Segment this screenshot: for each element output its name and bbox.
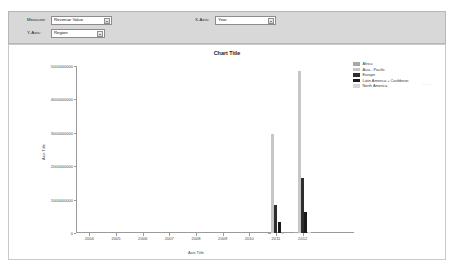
series-value: Region xyxy=(52,31,68,35)
xaxis-label: X-Axis: xyxy=(195,18,211,22)
legend-item[interactable]: North America xyxy=(353,84,408,88)
x-axis-tick-label: 2007 xyxy=(165,236,174,241)
chevron-down-icon[interactable] xyxy=(268,18,274,24)
legend-label: Latin America + Caribbean xyxy=(363,79,409,83)
bar xyxy=(308,232,311,233)
x-axis-line xyxy=(76,232,354,233)
legend-item[interactable]: Africa xyxy=(353,62,408,66)
y-axis-tick-label: 4000000000 xyxy=(51,97,76,102)
legend-swatch xyxy=(353,62,360,65)
series-label: Y-Axis: xyxy=(27,31,47,35)
chevron-down-icon[interactable] xyxy=(97,31,103,37)
y-axis-tick-label: 1000000000 xyxy=(51,197,76,202)
x-axis-tick-label: 2005 xyxy=(111,236,120,241)
y-axis-tick-label: 3000000000 xyxy=(51,130,76,135)
x-axis-tick-label: 2011 xyxy=(272,236,281,241)
panel-note: ......... xyxy=(422,82,433,86)
y-axis-tick-mark xyxy=(74,200,77,201)
x-axis-tick-label: 2004 xyxy=(85,236,94,241)
plot-area: 0100000000020000000003000000000400000000… xyxy=(76,66,316,233)
x-axis-tick-label: 2009 xyxy=(218,236,227,241)
chevron-down-icon[interactable] xyxy=(104,18,110,24)
measure-label: Measure: xyxy=(27,18,47,22)
parameter-panel: Measure: Revenue Value Y-Axis: Region X-… xyxy=(8,11,446,44)
y-axis-line xyxy=(76,66,77,233)
bar xyxy=(304,212,307,233)
legend-swatch xyxy=(353,84,360,87)
y-axis-tick-mark xyxy=(74,66,77,67)
series-parameter-row: Y-Axis: Region xyxy=(27,29,105,38)
measure-value: Revenue Value xyxy=(52,18,83,22)
legend-label: Africa xyxy=(363,62,373,66)
y-axis-tick-label: 5000000000 xyxy=(51,64,76,69)
chart-panel: ......... Chart Title Axis Title Axis Ti… xyxy=(8,44,446,260)
measure-parameter-row: Measure: Revenue Value xyxy=(27,16,112,25)
legend-swatch xyxy=(353,68,360,71)
legend-label: North America xyxy=(363,84,388,88)
y-axis-tick-mark xyxy=(74,166,77,167)
bar xyxy=(278,222,281,233)
x-axis-tick-label: 2008 xyxy=(191,236,200,241)
measure-dropdown[interactable]: Revenue Value xyxy=(51,16,112,25)
legend-swatch xyxy=(353,79,360,82)
chart-legend: AfricaAsia - PacificEuropeLatin America … xyxy=(353,62,408,88)
legend-label: Europe xyxy=(363,73,376,77)
chart-title: Chart Title xyxy=(9,50,445,56)
x-axis-title: Axis Title xyxy=(76,250,316,255)
xaxis-parameter-row: X-Axis: Year xyxy=(195,16,276,25)
series-dropdown[interactable]: Region xyxy=(51,29,105,38)
x-axis-tick-label: 2010 xyxy=(245,236,254,241)
y-axis-tick-mark xyxy=(74,233,77,234)
xaxis-dropdown[interactable]: Year xyxy=(215,16,276,25)
xaxis-value: Year xyxy=(216,18,227,22)
legend-item[interactable]: Latin America + Caribbean xyxy=(353,79,408,83)
y-axis-tick-mark xyxy=(74,99,77,100)
y-axis-tick-mark xyxy=(74,133,77,134)
legend-item[interactable]: Asia - Pacific xyxy=(353,68,408,72)
y-axis-tick-label: 2000000000 xyxy=(51,164,76,169)
legend-swatch xyxy=(353,73,360,76)
x-axis-tick-label: 2006 xyxy=(138,236,147,241)
report-viewer: Measure: Revenue Value Y-Axis: Region X-… xyxy=(0,0,454,273)
bar xyxy=(281,233,284,234)
legend-label: Asia - Pacific xyxy=(363,68,386,72)
legend-item[interactable]: Europe xyxy=(353,73,408,77)
y-axis-title: Axis Title xyxy=(41,144,46,160)
x-axis-tick-label: 2012 xyxy=(298,236,307,241)
